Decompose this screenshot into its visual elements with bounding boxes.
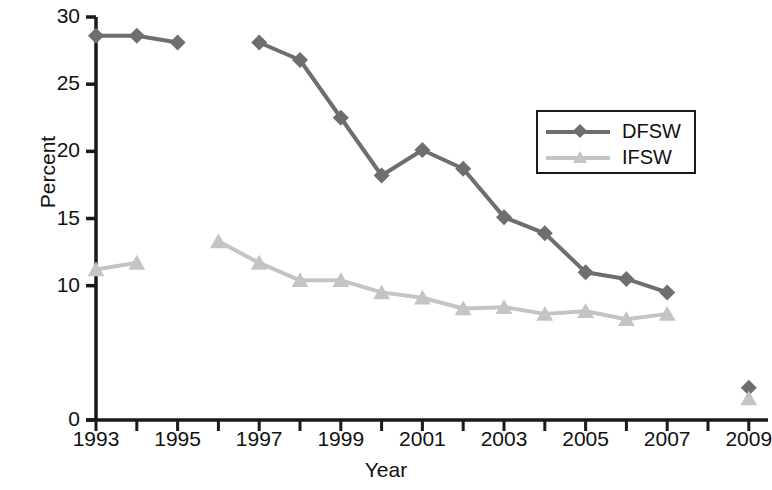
legend-item-dfsw: DFSW bbox=[546, 118, 692, 144]
x-tick-label: 1997 bbox=[224, 428, 294, 449]
line-chart-plot bbox=[0, 0, 772, 490]
series-line bbox=[218, 241, 667, 319]
x-axis-title: Year bbox=[0, 458, 772, 482]
data-point-marker bbox=[659, 284, 675, 300]
y-tick-label: 30 bbox=[34, 5, 80, 26]
diamond-marker-icon bbox=[572, 123, 588, 139]
chart-container: Percent Year 01015202530 199319951997199… bbox=[0, 0, 772, 490]
x-tick-label: 2001 bbox=[387, 428, 457, 449]
x-tick-label: 1999 bbox=[306, 428, 376, 449]
x-tick-label: 1993 bbox=[61, 428, 131, 449]
chart-legend: DFSW IFSW bbox=[536, 110, 696, 174]
x-tick-label: 2005 bbox=[551, 428, 621, 449]
data-point-marker bbox=[88, 28, 104, 44]
legend-item-ifsw: IFSW bbox=[546, 144, 692, 170]
data-point-marker bbox=[251, 255, 268, 270]
data-point-marker bbox=[618, 271, 634, 287]
y-tick-label: 0 bbox=[34, 408, 80, 429]
data-point-marker bbox=[129, 28, 145, 44]
data-point-marker bbox=[740, 391, 757, 406]
x-tick-label: 2007 bbox=[632, 428, 702, 449]
legend-label-dfsw: DFSW bbox=[622, 120, 681, 142]
series-ifsw bbox=[88, 233, 758, 405]
x-tick-label: 2009 bbox=[714, 428, 772, 449]
triangle-marker-icon bbox=[572, 149, 588, 165]
y-tick-label: 20 bbox=[34, 139, 80, 160]
y-tick-label: 25 bbox=[34, 72, 80, 93]
y-tick-label: 10 bbox=[34, 274, 80, 295]
x-tick-label: 2003 bbox=[469, 428, 539, 449]
series-dfsw bbox=[88, 28, 757, 396]
y-tick-label: 15 bbox=[34, 207, 80, 228]
data-point-marker bbox=[251, 35, 267, 51]
data-point-marker bbox=[170, 35, 186, 51]
x-tick-label: 1995 bbox=[143, 428, 213, 449]
data-point-marker bbox=[210, 233, 227, 248]
legend-label-ifsw: IFSW bbox=[622, 146, 672, 168]
